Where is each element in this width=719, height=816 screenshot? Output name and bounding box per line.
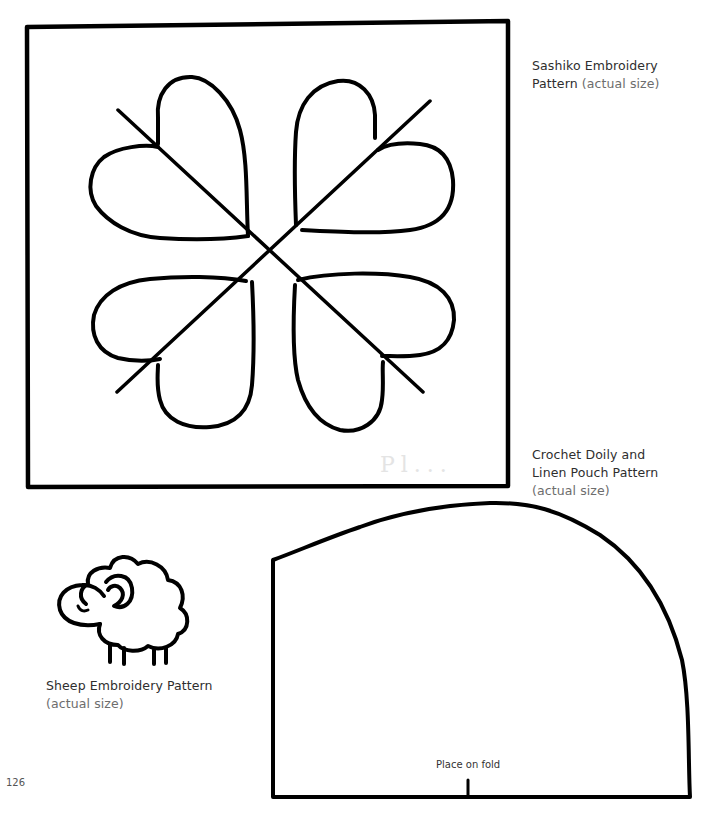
- faint-pencil-mark: Pl...: [380, 452, 453, 477]
- sashiko-leaf-top-right-upper: [295, 81, 375, 225]
- sheep-caption: Sheep Embroidery Pattern (actual size): [46, 677, 213, 713]
- sashiko-leaf-top-left-lower: [90, 146, 248, 239]
- pouch-caption: Crochet Doily and Linen Pouch Pattern (a…: [532, 446, 658, 500]
- sashiko-title-line2: Pattern: [532, 76, 578, 91]
- sashiko-leaf-bottom-right-upper: [298, 274, 454, 357]
- sashiko-stem-diagonal-b: [117, 101, 430, 392]
- sashiko-caption: Sashiko Embroidery Pattern (actual size): [532, 57, 660, 93]
- pouch-size-note: (actual size): [532, 482, 658, 500]
- sheep-title: Sheep Embroidery Pattern: [46, 677, 213, 695]
- place-on-fold-label: Place on fold: [436, 759, 500, 770]
- sashiko-pattern: [27, 21, 508, 487]
- sheep-eye: [78, 606, 88, 611]
- sashiko-leaf-top-right-lower: [302, 143, 453, 232]
- sashiko-title: Sashiko Embroidery: [532, 57, 660, 75]
- page-number: 126: [6, 777, 25, 788]
- pouch-title-line2: Linen Pouch Pattern: [532, 464, 658, 482]
- sashiko-leaf-bottom-left-lower: [158, 282, 254, 427]
- sheep-body: [81, 557, 187, 651]
- sashiko-leaf-bottom-right-lower: [293, 285, 383, 431]
- pouch-outline: [273, 503, 690, 797]
- pouch-pattern: [273, 503, 690, 797]
- sashiko-size-note: (actual size): [582, 76, 660, 91]
- sashiko-leaf-top-left-upper: [158, 77, 248, 236]
- sheep-size-note: (actual size): [46, 695, 213, 713]
- sheep-ear: [106, 576, 132, 607]
- pouch-title-line1: Crochet Doily and: [532, 446, 658, 464]
- sashiko-leaf-bottom-left-upper: [93, 277, 246, 361]
- sheep-pattern: [59, 557, 187, 664]
